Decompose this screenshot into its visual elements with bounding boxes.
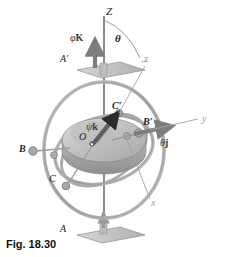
bearing-node-B (29, 147, 37, 155)
figure-18-30: Z z y x θ φ̇K ψ̇k θ̇j A′ B′ C′ O B C A F… (0, 0, 237, 257)
axis-label-Z: Z (106, 6, 112, 17)
vector-label-theta-dot-j: θ̇j (160, 138, 168, 148)
bearing-node-inner-left (51, 152, 58, 159)
axis-label-z: z (144, 54, 148, 64)
theta-angle-arc (104, 20, 140, 58)
point-label-A: A (60, 224, 66, 234)
j-basis-symbol: j (165, 137, 168, 148)
top-plate-collar (100, 63, 107, 75)
axis-label-y: y (202, 114, 206, 124)
angle-label-theta: θ (115, 33, 121, 44)
axis-label-x: x (151, 198, 155, 208)
k-basis-symbol: k (92, 121, 98, 132)
point-label-C: C (49, 174, 56, 184)
K-basis-symbol: K (76, 32, 84, 43)
point-label-O: O (79, 132, 86, 142)
point-label-C-prime: C′ (112, 101, 121, 111)
point-label-B-prime: B′ (143, 117, 152, 127)
point-label-A-prime: A′ (60, 54, 68, 64)
vector-label-psi-dot-k: ψ̇k (86, 122, 98, 132)
point-label-B: B (19, 144, 26, 154)
vector-label-phi-dot-K: φ̇K (70, 33, 83, 43)
bottom-plate-A (77, 227, 145, 243)
figure-caption: Fig. 18.30 (6, 238, 56, 250)
top-plate-A-prime (77, 62, 145, 78)
